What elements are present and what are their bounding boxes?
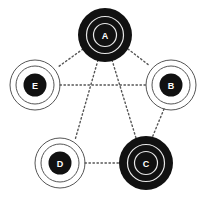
node-d[interactable]: D xyxy=(35,138,85,188)
network-diagram: A B C D E xyxy=(0,0,210,203)
node-e-label: E xyxy=(32,81,38,91)
node-a-label: A xyxy=(102,31,109,41)
node-c[interactable]: C xyxy=(119,136,173,190)
node-c-label: C xyxy=(143,159,150,169)
edge-a-d xyxy=(75,60,98,140)
node-d-label: D xyxy=(57,159,64,169)
edge-b-c xyxy=(152,109,164,138)
edge-a-c xyxy=(112,60,136,138)
node-b-label: B xyxy=(168,81,175,91)
edge-a-b xyxy=(128,49,150,66)
diagram-svg: A B C D E xyxy=(0,0,210,203)
node-a[interactable]: A xyxy=(78,8,132,62)
edge-a-e xyxy=(58,49,83,67)
node-b[interactable]: B xyxy=(146,60,196,110)
node-e[interactable]: E xyxy=(10,60,60,110)
